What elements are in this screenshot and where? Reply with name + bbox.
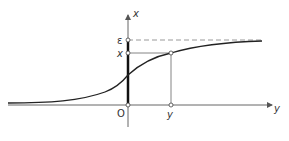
epsilon-label: ε [117, 35, 122, 46]
origin-label: O [117, 108, 125, 119]
y-point [169, 103, 173, 107]
horizontal-axis-label: y [273, 103, 281, 114]
x-level-label: x [116, 48, 123, 59]
sigmoid-curve [8, 41, 262, 103]
x-point [126, 51, 130, 55]
origin-point [126, 103, 130, 107]
y-level-label: y [166, 109, 174, 120]
vertical-axis-label: x [132, 8, 139, 19]
sigmoid-diagram: x y O ε x y [0, 0, 289, 141]
epsilon-point [126, 38, 130, 42]
curve-point [169, 51, 173, 55]
